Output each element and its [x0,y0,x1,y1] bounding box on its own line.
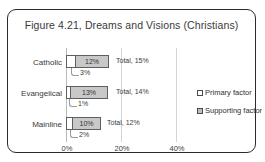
category-axis-labels: Catholic Evangelical Mainline [8,48,62,142]
bar-total-label-mainline: Total, 12% [107,119,140,126]
gridline-40-percent [176,48,177,142]
bar-label-primary-mainline: 2% [79,131,89,138]
legend-label-primary-factor: Primary factor [205,88,252,97]
bar-label-supporting-mainline: 10% [79,120,93,127]
x-tick-label-40: 40% [169,144,184,153]
legend-swatch-primary-icon [197,90,203,96]
bar-label-supporting-evangelical: 13% [82,89,96,96]
category-label-mainline: Mainline [10,120,62,129]
leader-line-catholic [71,68,79,76]
bar-segment-supporting-evangelical[interactable]: 13% [70,86,108,99]
bar-segment-primary-catholic[interactable] [66,55,75,68]
bar-total-label-evangelical: Total, 14% [116,88,149,95]
leader-line-evangelical [69,99,77,107]
bar-stack-evangelical: 13% [66,86,108,99]
plot-area: 12% Total, 15% 3% 13% Total, 14% 1% [66,48,197,142]
legend-swatch-supporting-icon [197,108,203,114]
figure-frame: Figure 4.21, Dreams and Visions (Christi… [7,9,256,153]
bar-stack-catholic: 12% [66,55,109,68]
legend-item-supporting-factor[interactable]: Supporting factor [197,106,259,115]
legend-item-primary-factor[interactable]: Primary factor [197,88,259,97]
bar-label-supporting-catholic: 12% [85,58,99,65]
bar-stack-mainline: 10% [66,117,101,130]
bar-total-label-catholic: Total, 15% [116,57,149,64]
leader-line-mainline [70,130,78,138]
x-tick-label-20: 20% [114,144,129,153]
bar-segment-supporting-catholic[interactable]: 12% [75,55,109,68]
chart-title: Figure 4.21, Dreams and Visions (Christi… [8,19,255,31]
bar-label-primary-catholic: 3% [80,69,90,76]
category-label-catholic: Catholic [10,58,62,67]
chart-legend: Primary factor Supporting factor [197,88,259,124]
x-tick-label-0: 0% [62,144,73,153]
legend-label-supporting-factor: Supporting factor [205,106,262,115]
category-label-evangelical: Evangelical [10,89,62,98]
bar-segment-supporting-mainline[interactable]: 10% [72,117,101,130]
bar-label-primary-evangelical: 1% [78,100,88,107]
x-axis: 0% 20% 40% [66,144,197,156]
